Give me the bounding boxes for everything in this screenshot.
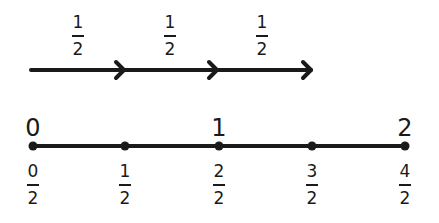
tick-fraction: 1 2 [113, 163, 137, 207]
numerator: 1 [250, 14, 274, 31]
numerator: 1 [113, 163, 137, 180]
tick-dot [29, 142, 38, 151]
tick-fraction: 4 2 [393, 163, 417, 207]
fraction-bar [399, 184, 411, 186]
jump-fraction: 1 2 [66, 14, 90, 58]
numerator: 2 [207, 163, 231, 180]
fraction-bar [306, 184, 318, 186]
tick-dot [401, 142, 410, 151]
tick-dot [215, 142, 224, 151]
jump-fraction: 1 2 [250, 14, 274, 58]
numerator: 1 [66, 14, 90, 31]
numerator: 4 [393, 163, 417, 180]
fraction-bar [72, 35, 84, 37]
fraction-bar [119, 184, 131, 186]
fraction-bar [27, 184, 39, 186]
tick-fraction: 3 2 [300, 163, 324, 207]
fraction-bar [213, 184, 225, 186]
denominator: 2 [250, 41, 274, 58]
denominator: 2 [393, 190, 417, 207]
tick-dot [308, 142, 317, 151]
denominator: 2 [207, 190, 231, 207]
jump-fraction: 1 2 [158, 14, 182, 58]
numerator: 3 [300, 163, 324, 180]
denominator: 2 [300, 190, 324, 207]
whole-label-0: 0 [21, 116, 45, 140]
numerator: 0 [21, 163, 45, 180]
jump-arrows [31, 62, 311, 78]
whole-label-2: 2 [393, 116, 417, 140]
fraction-bar [256, 35, 268, 37]
number-line [29, 142, 410, 151]
denominator: 2 [66, 41, 90, 58]
whole-label-1: 1 [207, 116, 231, 140]
fraction-bar [164, 35, 176, 37]
denominator: 2 [158, 41, 182, 58]
denominator: 2 [21, 190, 45, 207]
tick-fraction: 2 2 [207, 163, 231, 207]
tick-fraction: 0 2 [21, 163, 45, 207]
denominator: 2 [113, 190, 137, 207]
numerator: 1 [158, 14, 182, 31]
tick-dot [121, 142, 130, 151]
